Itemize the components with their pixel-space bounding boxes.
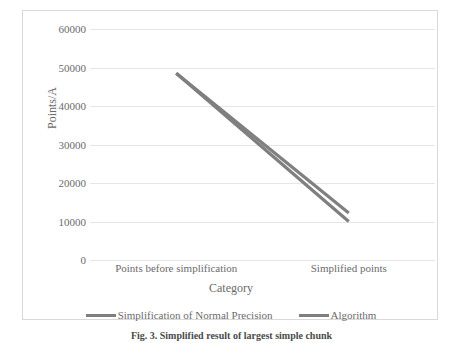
chart-frame: 60000 50000 40000 30000 20000 10000 0 Po… [22, 10, 438, 320]
y-tick-label: 0 [34, 255, 86, 266]
gridline [90, 260, 435, 261]
y-tick-label: 30000 [34, 140, 86, 151]
caption-label: Fig. 3. [131, 330, 157, 341]
line-algorithm [176, 73, 349, 221]
y-tick-label: 10000 [34, 217, 86, 228]
legend-label: Algorithm [331, 309, 377, 321]
legend-item-simplification-of-normal-precision[interactable]: Simplification of Normal Precision [86, 309, 273, 321]
chart-legend: Simplification of Normal Precision Algor… [23, 309, 439, 321]
figure-caption: Fig. 3. Simplified result of largest sim… [0, 330, 463, 341]
legend-label: Simplification of Normal Precision [118, 309, 273, 321]
x-tick-label: Points before simplification [115, 262, 237, 275]
legend-line-icon [86, 314, 116, 317]
plot-area [90, 29, 435, 260]
y-axis-tick-labels: 60000 50000 40000 30000 20000 10000 0 [31, 29, 86, 260]
legend-item-algorithm[interactable]: Algorithm [299, 309, 377, 321]
x-axis-title: Category [23, 281, 439, 296]
x-tick-label: Simplified points [311, 262, 387, 275]
y-tick-label: 40000 [34, 101, 86, 112]
y-tick-label: 50000 [34, 63, 86, 74]
x-axis-tick-labels: Points before simplification Simplified … [90, 262, 435, 278]
y-tick-label: 20000 [34, 178, 86, 189]
figure-container: 60000 50000 40000 30000 20000 10000 0 Po… [0, 0, 463, 343]
y-tick-label: 60000 [34, 24, 86, 35]
y-axis-title: Points/A [45, 87, 60, 129]
legend-line-icon [299, 314, 329, 317]
series-lines [90, 29, 435, 260]
caption-text: Simplified result of largest simple chun… [160, 330, 332, 341]
